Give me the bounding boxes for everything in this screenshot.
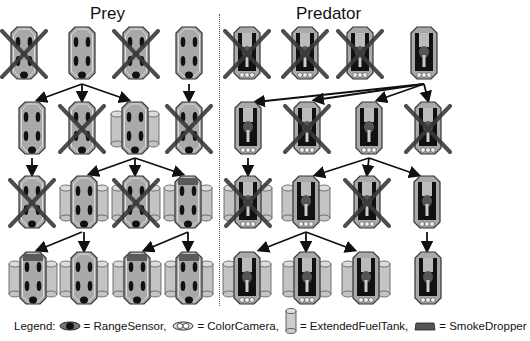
smoke-dropper-icon: [23, 254, 43, 261]
robots-layer: [2, 27, 450, 304]
evolution-arrow: [316, 158, 369, 175]
evolution-arrow: [260, 232, 306, 250]
predator-robot: [235, 102, 261, 154]
color-camera-icon: [431, 148, 436, 153]
color-camera-icon: [241, 222, 246, 227]
color-camera-icon: [308, 73, 313, 78]
legend-prefix: Legend:: [14, 320, 56, 332]
smoke-dropper-icon: [414, 322, 436, 331]
color-camera-icon: [251, 148, 256, 153]
predator-robot: [282, 176, 330, 228]
color-camera-icon: [304, 222, 309, 227]
color-camera-icon: [363, 73, 368, 78]
extended-fuel-tank-icon: [285, 308, 297, 334]
predator-robot-eliminated: [345, 176, 389, 228]
prey-robot: [19, 102, 45, 154]
legend: Legend: = RangeSensor, = ColorCamera, = …: [14, 318, 530, 334]
color-camera-icon: [240, 298, 245, 303]
predator-robot: [415, 252, 441, 304]
range-sensor-icon: [131, 147, 139, 154]
prey-robot-eliminated: [10, 176, 54, 228]
predator-robot-eliminated: [225, 27, 269, 79]
predator-robot: [414, 176, 440, 228]
evolution-arrow: [306, 232, 354, 250]
predator-robot-eliminated: [285, 102, 329, 154]
prey-robot-eliminated: [2, 27, 46, 79]
color-camera-icon: [421, 298, 426, 303]
evolution-arrow: [38, 84, 82, 100]
color-camera-icon: [300, 298, 305, 303]
predator-robot: [342, 252, 390, 304]
predator-robot: [223, 252, 271, 304]
prey-robot-eliminated: [114, 27, 158, 79]
predator-robot: [356, 102, 382, 154]
color-camera-icon: [251, 222, 256, 227]
color-camera-icon: [305, 148, 310, 153]
color-camera-icon: [372, 148, 377, 153]
color-camera-icon: [245, 73, 250, 78]
color-camera-icon: [309, 222, 314, 227]
color-camera-icon: [367, 148, 372, 153]
evolution-arrow: [38, 232, 82, 250]
color-camera-icon: [358, 73, 363, 78]
prey-robot: [9, 252, 57, 304]
evolution-diagram: [0, 0, 455, 312]
color-camera-icon: [360, 222, 365, 227]
color-camera-icon: [305, 298, 310, 303]
range-sensor-icon: [133, 297, 141, 304]
prey-robot: [60, 252, 108, 304]
prey-robot-eliminated: [60, 102, 104, 154]
color-camera-icon: [370, 222, 375, 227]
evolution-arrow: [424, 84, 428, 100]
legend-label: = RangeSensor,: [84, 320, 167, 332]
evolution-arrow: [135, 158, 182, 174]
color-camera-icon: [240, 73, 245, 78]
prey-robot: [69, 27, 95, 79]
color-camera-icon: [310, 298, 315, 303]
color-camera-icon: [300, 148, 305, 153]
prey-robot: [176, 27, 202, 79]
range-sensor-icon: [185, 147, 193, 154]
color-camera-icon: [353, 73, 358, 78]
legend-item-smoke-dropper: = SmokeDropper: [411, 320, 526, 332]
range-sensor-icon: [20, 72, 28, 79]
color-camera-icon: [369, 298, 374, 303]
color-camera-icon: [359, 298, 364, 303]
prey-robot-eliminated: [112, 176, 160, 228]
legend-label: = ColorCamera,: [197, 320, 279, 332]
prey-robot: [60, 176, 108, 228]
color-camera-icon: [303, 73, 308, 78]
color-camera-icon: [420, 222, 425, 227]
predator-robot-eliminated: [338, 27, 382, 79]
predator-robot-eliminated: [283, 27, 327, 79]
range-sensor-icon: [185, 297, 193, 304]
range-sensor-icon: [132, 221, 140, 228]
evolution-arrow: [367, 158, 369, 174]
color-camera-icon: [299, 222, 304, 227]
range-sensor-icon: [80, 297, 88, 304]
range-sensor-icon: [28, 147, 36, 154]
evolution-arrow: [90, 158, 135, 174]
prey-robot: [164, 176, 212, 228]
color-camera-icon: [172, 321, 194, 331]
range-sensor-icon: [132, 72, 140, 79]
color-camera-icon: [431, 298, 436, 303]
color-camera-icon: [310, 148, 315, 153]
color-camera-icon: [250, 298, 255, 303]
color-camera-icon: [426, 148, 431, 153]
color-camera-icon: [362, 148, 367, 153]
predator-robot-eliminated: [406, 102, 450, 154]
color-camera-icon: [246, 222, 251, 227]
prey-robot: [111, 102, 159, 154]
color-camera-icon: [365, 222, 370, 227]
evolution-arrow: [369, 158, 418, 175]
predator-robot: [283, 252, 331, 304]
range-sensor-icon: [78, 147, 86, 154]
range-sensor-icon: [184, 221, 192, 228]
evolution-arrow: [82, 84, 128, 100]
color-camera-icon: [427, 73, 432, 78]
range-sensor-icon: [80, 221, 88, 228]
legend-item-range-sensor: = RangeSensor,: [56, 320, 167, 332]
color-camera-icon: [422, 73, 427, 78]
color-camera-icon: [245, 298, 250, 303]
